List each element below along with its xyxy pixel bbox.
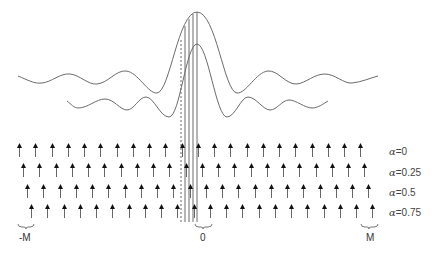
alpha-value: =0.25 xyxy=(396,167,421,178)
bracket-m xyxy=(361,224,378,229)
sample-arrow-icon xyxy=(37,163,42,177)
sample-arrow-icon xyxy=(366,184,371,198)
arrow-rows xyxy=(17,143,375,218)
sample-arrow-icon xyxy=(115,143,120,157)
sample-arrow-icon xyxy=(208,204,213,218)
axis-label-m: M xyxy=(366,233,374,243)
kernel-sampling-diagram xyxy=(0,0,435,255)
axis-label-minus-m: -M xyxy=(19,233,31,243)
sample-arrow-icon xyxy=(21,163,26,177)
sample-arrow-icon xyxy=(285,184,290,198)
sample-arrow-icon xyxy=(346,163,351,177)
sample-arrow-icon xyxy=(269,184,274,198)
sample-arrow-icon xyxy=(119,163,124,177)
sample-arrow-icon xyxy=(314,163,319,177)
arrow-row-3 xyxy=(29,204,375,218)
sample-arrow-icon xyxy=(204,184,209,198)
sample-arrow-icon xyxy=(236,184,241,198)
sample-arrow-icon xyxy=(245,143,250,157)
sample-arrow-icon xyxy=(362,163,367,177)
sample-arrow-icon xyxy=(318,184,323,198)
sample-arrow-icon xyxy=(135,163,140,177)
sample-arrow-icon xyxy=(54,163,59,177)
sample-arrow-icon xyxy=(228,143,233,157)
sample-arrow-icon xyxy=(58,184,63,198)
arrow-row-1 xyxy=(21,163,367,177)
alpha-label-075: α=0.75 xyxy=(389,208,421,218)
alpha-label-0: α=0 xyxy=(389,147,407,157)
sample-arrow-icon xyxy=(74,184,79,198)
sample-arrow-icon xyxy=(370,204,375,218)
sample-arrow-icon xyxy=(90,184,95,198)
alpha-symbol: α xyxy=(389,167,396,178)
sample-arrow-icon xyxy=(358,143,363,157)
sample-arrow-icon xyxy=(265,163,270,177)
sample-arrow-icon xyxy=(293,143,298,157)
sample-arrow-icon xyxy=(322,204,327,218)
sample-arrow-icon xyxy=(220,184,225,198)
sample-arrow-icon xyxy=(143,204,148,218)
sample-arrow-icon xyxy=(151,163,156,177)
alpha-value: =0.5 xyxy=(396,187,416,198)
sample-arrow-icon xyxy=(232,163,237,177)
arrow-row-2 xyxy=(25,184,371,198)
sample-arrow-icon xyxy=(200,163,205,177)
sample-arrow-icon xyxy=(310,143,315,157)
sample-arrow-icon xyxy=(338,204,343,218)
alpha-label-025: α=0.25 xyxy=(389,168,421,178)
sample-arrow-icon xyxy=(147,143,152,157)
sample-arrow-icon xyxy=(163,143,168,157)
upper-kernel-curve xyxy=(18,12,378,93)
sample-arrow-icon xyxy=(66,143,71,157)
sample-arrow-icon xyxy=(155,184,160,198)
sample-arrow-icon xyxy=(29,204,34,218)
sample-arrow-icon xyxy=(350,184,355,198)
sample-arrow-icon xyxy=(305,204,310,218)
sample-arrow-icon xyxy=(139,184,144,198)
sample-arrow-icon xyxy=(330,163,335,177)
axis-label-zero: 0 xyxy=(200,233,206,243)
sample-arrow-icon xyxy=(33,143,38,157)
sample-arrow-icon xyxy=(70,163,75,177)
sample-arrow-icon xyxy=(17,143,22,157)
sample-arrow-icon xyxy=(249,163,254,177)
sample-arrow-icon xyxy=(240,204,245,218)
alpha-value: =0 xyxy=(396,146,407,157)
sample-arrow-icon xyxy=(224,204,229,218)
sample-arrow-icon xyxy=(277,143,282,157)
sample-arrow-icon xyxy=(45,204,50,218)
sample-arrow-icon xyxy=(175,204,180,218)
sample-arrow-icon xyxy=(123,184,128,198)
sample-arrow-icon xyxy=(86,163,91,177)
sample-arrow-icon xyxy=(281,163,286,177)
alpha-symbol: α xyxy=(389,146,396,157)
sample-arrow-icon xyxy=(62,204,67,218)
sample-arrow-icon xyxy=(159,204,164,218)
sample-arrow-icon xyxy=(78,204,83,218)
sample-arrow-icon xyxy=(342,143,347,157)
sample-arrow-icon xyxy=(171,184,176,198)
sample-arrow-icon xyxy=(289,204,294,218)
alpha-symbol: α xyxy=(389,207,396,218)
arrow-row-0 xyxy=(17,143,363,157)
sample-arrow-icon xyxy=(110,204,115,218)
sample-arrow-icon xyxy=(253,184,258,198)
sample-arrow-icon xyxy=(94,204,99,218)
sample-arrow-icon xyxy=(354,204,359,218)
sample-arrow-icon xyxy=(257,204,262,218)
alpha-symbol: α xyxy=(389,187,396,198)
sample-arrow-icon xyxy=(82,143,87,157)
sample-arrow-icon xyxy=(212,143,217,157)
sample-arrow-icon xyxy=(131,143,136,157)
alpha-value: =0.75 xyxy=(396,207,421,218)
sample-arrow-icon xyxy=(297,163,302,177)
bracket-zero xyxy=(195,224,212,229)
sample-arrow-icon xyxy=(127,204,132,218)
sample-arrow-icon xyxy=(273,204,278,218)
sample-arrow-icon xyxy=(98,143,103,157)
sample-arrow-icon xyxy=(25,184,30,198)
sample-arrow-icon xyxy=(167,163,172,177)
sample-arrow-icon xyxy=(106,184,111,198)
sample-arrow-icon xyxy=(216,163,221,177)
alpha-label-05: α=0.5 xyxy=(389,188,416,198)
